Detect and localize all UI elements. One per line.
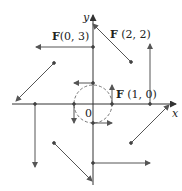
vector-2-neg2 xyxy=(131,105,169,143)
label-F-2-2: F (2, 2) xyxy=(110,28,151,41)
label-F-0-3: F(0, 3) xyxy=(52,30,89,43)
vector-neg2-2 xyxy=(16,63,54,101)
origin-label: 0 xyxy=(85,107,92,120)
vector-neg2-neg2 xyxy=(54,143,92,181)
label-F-1-0: F (1, 0) xyxy=(116,88,157,101)
y-axis-label: y xyxy=(82,11,90,24)
vector-field-diagram: x y 0 F(0, 3) F (2, 2) xyxy=(0,0,182,191)
x-axis-label: x xyxy=(172,107,179,120)
